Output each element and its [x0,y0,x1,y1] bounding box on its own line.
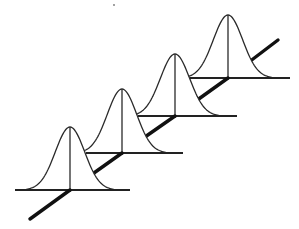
regression-line-front [30,190,70,219]
normal-distribution-4 [184,15,290,78]
speck-dot [113,4,115,6]
regression-normal-curves-diagram: Four identical bell-shaped normal distri… [0,0,299,229]
diagram-canvas [0,0,299,229]
distributions-layer [15,15,290,219]
